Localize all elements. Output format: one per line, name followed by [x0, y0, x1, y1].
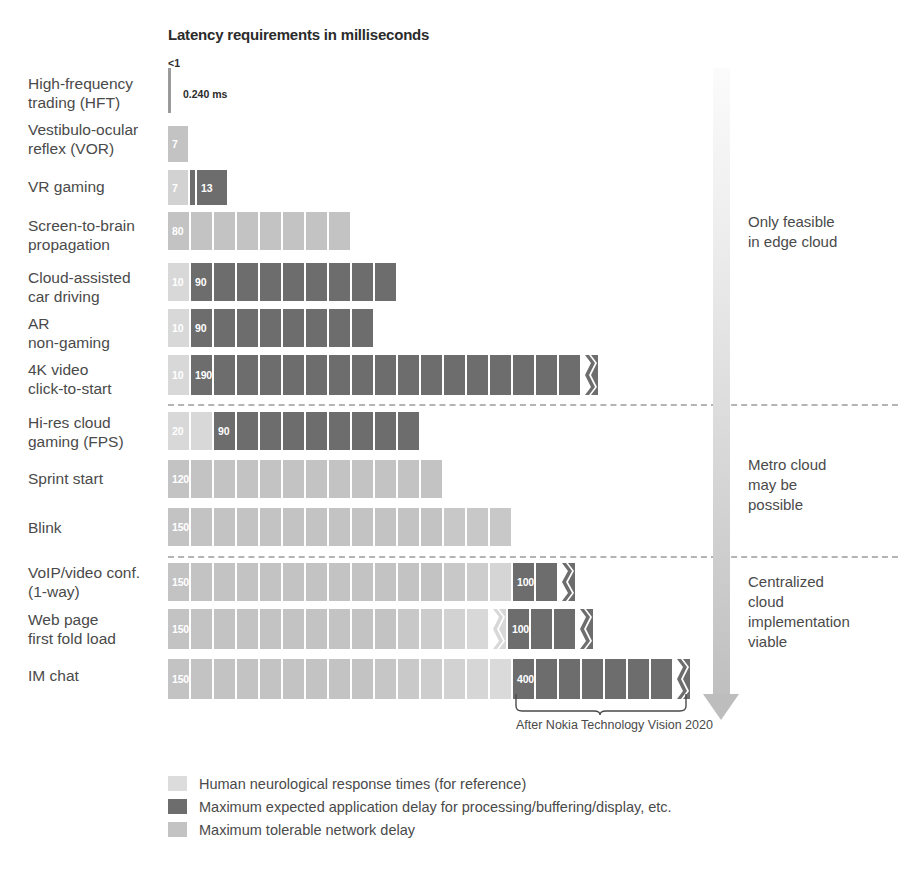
- bar-segment-application: 13: [197, 170, 227, 205]
- bar-segment-human: [214, 609, 235, 649]
- bar-segment-human: [237, 508, 258, 546]
- legend-label-human: Human neurological response times (for r…: [199, 776, 526, 792]
- bar-segment-network: 10: [168, 309, 189, 347]
- bar-segment-human: [214, 460, 235, 498]
- bar-segment-application: [306, 263, 327, 301]
- bar-row-vor: 7: [168, 126, 190, 162]
- bar-segment-human: 7: [168, 170, 188, 205]
- bar-segment-application: [375, 412, 396, 450]
- bar-row-sprint-start: 120: [168, 460, 444, 498]
- bar-segment-application: [352, 309, 373, 347]
- bar-segment-application: [421, 355, 442, 395]
- bar-segment-human: [283, 508, 304, 546]
- legend-item-network: Maximum tolerable network delay: [168, 818, 672, 841]
- bar-segment-human: [237, 609, 258, 649]
- bar-segment-human: [421, 609, 442, 649]
- bar-segment-application: [329, 309, 350, 347]
- bar-segment-human: [421, 460, 442, 498]
- latency-requirements-chart: Latency requirements in milliseconds Hig…: [0, 0, 912, 883]
- bar-segment-network: 20: [168, 412, 189, 450]
- row-label-vr-gaming: VR gaming: [28, 177, 163, 196]
- bar-segment-value: 10: [172, 369, 183, 381]
- bar-segment-application: [531, 609, 552, 649]
- bar-segment-application: [559, 355, 580, 395]
- bar-segment-human: [191, 508, 212, 546]
- bar-segment-human: [214, 508, 235, 546]
- bar-segment-application: [283, 412, 304, 450]
- bar-segment-human: [191, 212, 212, 250]
- bar-segment-application: [536, 563, 557, 601]
- bar-segment-human: [283, 212, 304, 250]
- bar-row-blink: 150: [168, 508, 513, 546]
- bar-segment-value: 90: [195, 276, 206, 288]
- bar-segment-application: [260, 263, 281, 301]
- bar-segment-value: 150: [172, 576, 189, 588]
- bar-segment-human: [467, 508, 488, 546]
- bar-segment-application: [559, 659, 580, 699]
- bar-segment-network: 10: [168, 355, 189, 395]
- bar-segment-human: [306, 659, 327, 699]
- bar-segment-value: 150: [172, 623, 189, 635]
- row-label-vor: Vestibulo-ocular reflex (VOR): [28, 120, 163, 158]
- bar-segment-human: [444, 659, 465, 699]
- bar-segment-human: [490, 563, 511, 601]
- row-label-sprint-start: Sprint start: [28, 469, 163, 488]
- bar-segment-human: [191, 659, 212, 699]
- bar-segment-human: [352, 659, 373, 699]
- bar-segment-human: [398, 460, 419, 498]
- bar-segment-human: [444, 563, 465, 601]
- bar-segment-application: [260, 412, 281, 450]
- bar-segment-value: 20: [172, 425, 183, 437]
- legend-swatch-application: [168, 799, 187, 814]
- bar-segment-human: [398, 563, 419, 601]
- row-label-ar-nongaming: AR non-gaming: [28, 314, 163, 352]
- bar-segment-human: [467, 609, 488, 649]
- bar-segment-human: [421, 563, 442, 601]
- bar-segment-human: [306, 508, 327, 546]
- bar-segment-value: 90: [218, 425, 229, 437]
- bar-segment-application: [605, 659, 626, 699]
- bar-segment-value: 100: [517, 576, 534, 588]
- bar-segment-application: [260, 309, 281, 347]
- row-label-blink: Blink: [28, 518, 163, 537]
- bar-segment-application: 1900: [191, 355, 212, 395]
- bar-segment-application: [260, 355, 281, 395]
- bar-segment-application: [490, 355, 511, 395]
- bar-segment-human: [490, 508, 511, 546]
- bar-segment-application: [306, 355, 327, 395]
- bar-segment-application: [651, 659, 672, 699]
- bar-segment-human: [237, 563, 258, 601]
- row-label-car-driving: Cloud-assisted car driving: [28, 268, 163, 306]
- bar-segment-application: [375, 355, 396, 395]
- bar-segment-human: 150: [168, 609, 189, 649]
- bar-segment-application: [237, 355, 258, 395]
- bar-segment-value: 120: [172, 473, 189, 485]
- feasibility-arrow-head: [703, 694, 739, 720]
- bar-row-ar-nongaming: 10 90: [168, 309, 375, 347]
- bar-segment-human: [283, 460, 304, 498]
- source-annotation: After Nokia Technology Vision 2020: [516, 718, 816, 732]
- bar-segment-human: 150: [168, 563, 189, 601]
- hft-side-value: 0.240 ms: [183, 88, 227, 100]
- bar-segment-application: 90: [191, 309, 212, 347]
- zone-divider-metro-central: [168, 556, 898, 558]
- bar-segment-human: [398, 508, 419, 546]
- axis-break-icon: [582, 355, 598, 395]
- bar-segment-human: [375, 659, 396, 699]
- legend-label-network: Maximum tolerable network delay: [199, 822, 415, 838]
- bar-segment-application: [329, 263, 350, 301]
- zone-note-metro-cloud: Metro cloud may be possible: [748, 455, 826, 515]
- legend-swatch-human: [168, 776, 187, 791]
- bar-segment-human: [214, 212, 235, 250]
- bar-segment-human: [283, 563, 304, 601]
- source-brace: [514, 694, 688, 716]
- bar-segment-human: [306, 563, 327, 601]
- bar-segment-application: [398, 412, 419, 450]
- bar-segment-human: 120: [168, 460, 189, 498]
- bar-segment-application: [398, 355, 419, 395]
- row-label-cloud-gaming: Hi-res cloud gaming (FPS): [28, 413, 163, 451]
- bar-segment-human: [260, 563, 281, 601]
- bar-segment-application: [467, 355, 488, 395]
- bar-segment-network: [191, 412, 212, 450]
- legend-item-application: Maximum expected application delay for p…: [168, 795, 672, 818]
